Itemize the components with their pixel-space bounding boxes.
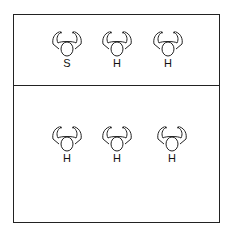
person-arms-raised-icon	[100, 29, 134, 59]
person-arms-raised-icon	[155, 124, 189, 154]
person-figure: H	[151, 29, 185, 71]
person-figure: H	[100, 29, 134, 71]
section-divider	[13, 85, 220, 86]
person-label: H	[100, 152, 134, 164]
person-arms-raised-icon	[50, 29, 84, 59]
person-label: H	[100, 57, 134, 69]
person-label: H	[151, 57, 185, 69]
person-arms-raised-icon	[100, 124, 134, 154]
person-figure: H	[100, 124, 134, 166]
person-figure: S	[50, 29, 84, 71]
person-label: H	[155, 152, 189, 164]
person-figure: H	[50, 124, 84, 166]
person-label: H	[50, 152, 84, 164]
person-figure: H	[155, 124, 189, 166]
person-label: S	[50, 57, 84, 69]
person-arms-raised-icon	[151, 29, 185, 59]
person-arms-raised-icon	[50, 124, 84, 154]
